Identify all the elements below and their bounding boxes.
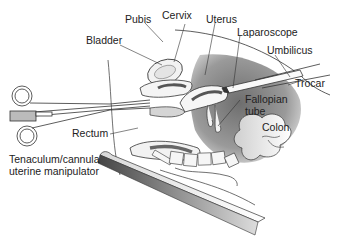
label-fallopian-tube-line1: Fallopian [245, 94, 288, 105]
label-bladder: Bladder [86, 35, 122, 46]
laparoscopy-diagram: Pubis Cervix Uterus Bladder Laparoscope … [0, 0, 338, 240]
label-colon: Colon [262, 122, 289, 133]
cervix [150, 107, 185, 117]
label-trocar: Trocar [295, 78, 325, 89]
label-laparoscope: Laparoscope [237, 27, 298, 38]
bladder [140, 80, 192, 97]
label-pubis: Pubis [125, 14, 151, 25]
label-fallopian-tube-line2: tube [245, 106, 265, 117]
label-cervix: Cervix [162, 10, 192, 21]
label-manipulator-line2: uterine manipulator [9, 166, 99, 177]
label-uterus: Uterus [206, 14, 237, 25]
label-rectum: Rectum [72, 128, 108, 139]
label-manipulator-line1: Tenaculum/cannula [9, 154, 99, 165]
label-umbilicus: Umbilicus [267, 45, 313, 56]
